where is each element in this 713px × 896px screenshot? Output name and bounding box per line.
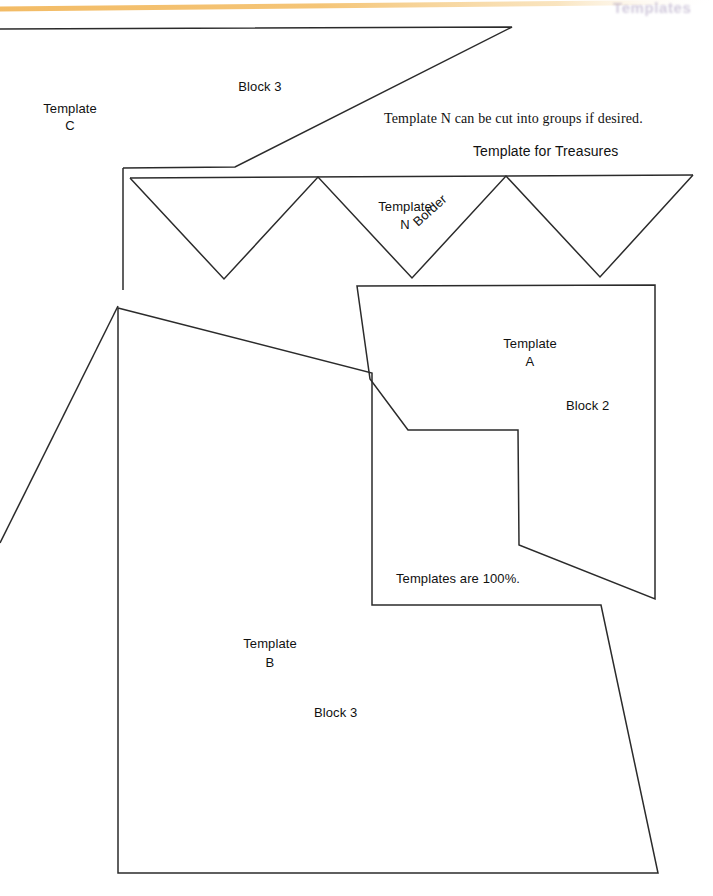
label-block2: Block 2	[566, 398, 609, 414]
label-template-c-line1: Template	[10, 101, 130, 117]
label-template-a-line1: Template	[470, 336, 590, 352]
label-template-a-line2: A	[470, 354, 590, 370]
label-block3-bottom: Block 3	[314, 705, 357, 721]
shape-template-a	[357, 285, 655, 599]
label-templates-are-100: Templates are 100%.	[396, 571, 520, 587]
note-template-n-cut-groups: Template N can be cut into groups if des…	[384, 111, 643, 127]
template-page: Templates	[0, 0, 713, 896]
template-line-art	[0, 0, 713, 896]
label-template-n-line2: N	[350, 217, 460, 233]
label-template-for-treasures: Template for Treasures	[473, 143, 618, 159]
label-template-b-line2: B	[210, 655, 330, 671]
label-block3-top: Block 3	[200, 79, 320, 95]
shape-template-c	[0, 27, 512, 168]
label-template-c-line2: C	[10, 118, 130, 134]
label-template-b-line1: Template	[210, 636, 330, 652]
left-diagonal-edge	[0, 306, 118, 543]
shape-template-b	[118, 308, 658, 873]
